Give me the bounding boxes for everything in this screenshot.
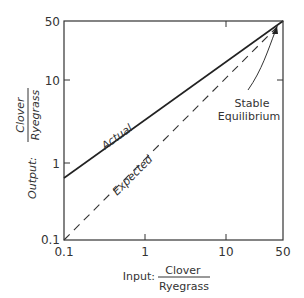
chart: 50 10 1 0.1 0.1 1 10 50 Actual Expected … [0, 0, 304, 298]
y-tick-label-10: 10 [45, 74, 60, 88]
series-expected-line [64, 21, 283, 240]
y-axis-label: Output: Clover Ryegrass [14, 88, 42, 199]
x-axis-numerator: Clover [165, 264, 201, 277]
y-axis-denominator: Ryegrass [29, 89, 42, 140]
y-axis-prefix: Output: [26, 157, 39, 199]
label-actual: Actual [98, 122, 135, 153]
x-tick-label-10: 10 [218, 245, 233, 259]
y-tick-label-50: 50 [45, 15, 60, 29]
x-axis-denominator: Ryegrass [159, 280, 209, 293]
x-tick-label-1: 1 [141, 245, 149, 259]
annotation-arrow-line [248, 32, 275, 90]
annotation-stable: Stable [235, 97, 270, 110]
label-expected: Expected [110, 152, 156, 198]
y-tick-label-1: 1 [52, 157, 60, 171]
x-axis-prefix: Input: [123, 270, 155, 283]
x-tick-label-50: 50 [275, 245, 290, 259]
x-tick-label-0.1: 0.1 [54, 245, 73, 259]
annotation-equilibrium: Equilibrium [218, 110, 280, 123]
y-axis-numerator: Clover [14, 96, 27, 133]
